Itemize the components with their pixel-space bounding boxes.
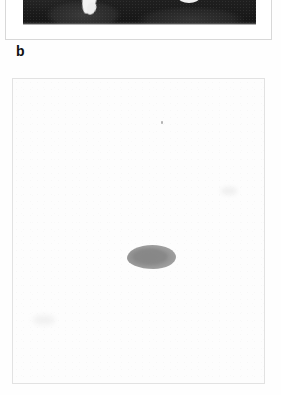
panel-a-gel-image bbox=[23, 0, 256, 25]
panel-b-film bbox=[13, 79, 264, 383]
panel-b-band-main-core bbox=[133, 249, 167, 264]
panel-b-smudge-right bbox=[221, 187, 237, 195]
panel-a-frame bbox=[5, 0, 272, 40]
panel-b-film-grain bbox=[13, 79, 264, 383]
panel-b-speck bbox=[161, 121, 163, 124]
panel-a-gel-bottom-edge bbox=[23, 21, 256, 25]
panel-b-label: b bbox=[16, 44, 25, 58]
figure-root: b bbox=[0, 0, 281, 395]
panel-b-frame bbox=[12, 78, 265, 384]
panel-b-smudge-left bbox=[33, 315, 55, 325]
